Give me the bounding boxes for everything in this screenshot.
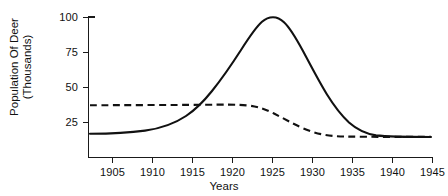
y-axis-ticks: [83, 18, 89, 123]
y-axis-title: Population Of Deer (Thousands): [8, 2, 34, 132]
x-tick-label-1920: 1920: [212, 167, 253, 178]
x-axis-ticks: [113, 158, 433, 164]
x-tick-label-1925: 1925: [252, 167, 293, 178]
x-tick-label-1930: 1930: [292, 167, 333, 178]
y-tick-label-75: 75: [46, 47, 78, 58]
y-axis-title-line1: Population Of Deer: [8, 18, 20, 116]
x-tick-label-1940: 1940: [372, 167, 413, 178]
x-axis-title: Years: [0, 180, 448, 192]
x-tick-label-1915: 1915: [172, 167, 213, 178]
x-tick-label-1905: 1905: [92, 167, 133, 178]
x-tick-label-1935: 1935: [332, 167, 373, 178]
x-tick-label-1945: 1945: [412, 167, 448, 178]
y-axis-title-line2: (Thousands): [21, 2, 34, 132]
y-tick-label-25: 25: [46, 117, 78, 128]
x-tick-label-1910: 1910: [132, 167, 173, 178]
y-tick-label-50: 50: [46, 82, 78, 93]
deer-population-chart: 100 75 50 25 1905 1910 1915 1920 1925 19…: [0, 0, 448, 196]
y-tick-label-100: 100: [46, 12, 78, 23]
series-deer-population: [90, 17, 431, 137]
